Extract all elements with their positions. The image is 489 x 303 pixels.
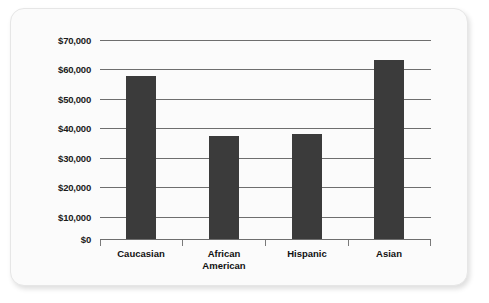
y-tick-label: $70,000 <box>58 35 91 46</box>
bar-asian <box>374 60 404 239</box>
y-tick-label: $50,000 <box>58 93 91 104</box>
x-axis-label-african-american: African American <box>184 248 264 272</box>
y-tick-label: $40,000 <box>58 123 91 134</box>
y-axis-tick-labels: $70,000 $60,000 $50,000 $40,000 $30,000 … <box>11 9 91 287</box>
x-axis-tick <box>100 240 101 246</box>
y-tick-label: $60,000 <box>58 64 91 75</box>
bar-hispanic <box>292 134 322 239</box>
y-tick-label: $0 <box>81 234 91 245</box>
y-tick-label: $20,000 <box>58 182 91 193</box>
bar-caucasian <box>126 76 156 239</box>
x-axis-label-asian: Asian <box>349 248 429 260</box>
x-axis-label-caucasian: Caucasian <box>101 248 181 260</box>
y-tick-label: $30,000 <box>58 152 91 163</box>
x-axis-tick <box>182 240 183 246</box>
x-axis-label-hispanic: Hispanic <box>267 248 347 260</box>
chart-card: $70,000 $60,000 $50,000 $40,000 $30,000 … <box>10 8 468 286</box>
bar-african-american <box>209 136 239 239</box>
x-axis-tick <box>265 240 266 246</box>
y-tick-label: $10,000 <box>58 211 91 222</box>
x-axis-tick <box>430 240 431 246</box>
gridline-70000 <box>100 40 431 41</box>
x-axis-tick <box>348 240 349 246</box>
bar-chart-plot-area: $70,000 $60,000 $50,000 $40,000 $30,000 … <box>11 9 469 287</box>
